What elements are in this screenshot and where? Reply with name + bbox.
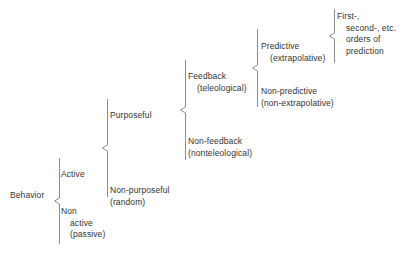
node-active: Active [61, 169, 85, 181]
node-prediction-orders-line4: prediction [337, 46, 396, 58]
node-nonpredictive: Non-predictive (non-extrapolative) [261, 86, 334, 109]
brace-predictive [327, 9, 337, 63]
node-nonfeedback-line1: Non-feedback [188, 136, 252, 148]
node-nonpurposeful-line1: Non-purposeful [110, 185, 170, 197]
brace-purposeful [178, 60, 188, 160]
node-predictive-line2: (extrapolative) [261, 53, 325, 65]
brace-feedback [250, 29, 260, 107]
node-prediction-orders-line3: orders of [337, 34, 396, 46]
node-behavior-label: Behavior [10, 190, 44, 202]
node-purposeful-label: Purposeful [110, 110, 152, 122]
node-nonfeedback-line2: (nonteleological) [188, 148, 252, 160]
behavior-classification-diagram: Behavior Active Non active (passive) Pur… [0, 0, 414, 255]
node-predictive-line1: Predictive [261, 41, 325, 53]
node-prediction-orders-line2: second-, etc. [337, 23, 396, 35]
node-behavior: Behavior [10, 190, 44, 202]
node-predictive: Predictive (extrapolative) [261, 41, 325, 64]
node-nonactive-line3: (passive) [61, 229, 105, 241]
node-nonactive-line1: Non [61, 206, 105, 218]
node-prediction-orders: First-, second-, etc. orders of predicti… [337, 11, 396, 57]
node-feedback-line1: Feedback [188, 71, 247, 83]
node-active-label: Active [61, 169, 85, 181]
node-prediction-orders-line1: First-, [337, 11, 396, 23]
node-nonpredictive-line1: Non-predictive [261, 86, 334, 98]
node-nonactive-line2: active [61, 218, 105, 230]
node-purposeful: Purposeful [110, 110, 152, 122]
node-nonpurposeful: Non-purposeful (random) [110, 185, 170, 208]
node-nonpredictive-line2: (non-extrapolative) [261, 98, 334, 110]
node-feedback: Feedback (teleological) [188, 71, 247, 94]
node-nonactive: Non active (passive) [61, 206, 105, 241]
node-nonpurposeful-line2: (random) [110, 197, 170, 209]
node-feedback-line2: (teleological) [188, 83, 247, 95]
node-nonfeedback: Non-feedback (nonteleological) [188, 136, 252, 159]
brace-active [100, 99, 110, 197]
